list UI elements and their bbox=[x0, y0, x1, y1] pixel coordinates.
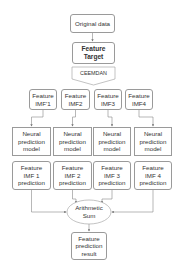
neural-model-box-4: Neural prediction model bbox=[134, 127, 172, 156]
neural-model-box-3: Neural prediction model bbox=[93, 127, 131, 156]
arrow-imf3-model3 bbox=[108, 110, 112, 126]
imf-prediction-box-3: Feature IMF 3 prediction bbox=[93, 161, 131, 190]
imf-box-2: Feature IMF2 bbox=[61, 89, 90, 110]
imf-prediction-box-4: Feature IMF 4 prediction bbox=[134, 161, 172, 190]
neural-model-box-1: Neural prediction model bbox=[12, 127, 51, 156]
prediction-result-box: Feature prediction result bbox=[71, 232, 107, 260]
arrow-pred1-sum bbox=[32, 190, 67, 212]
ceemdan-label: CEEMDAN bbox=[72, 68, 115, 79]
feature-target-box: Feature Target bbox=[72, 42, 115, 64]
imf-box-4: Feature IMF4 bbox=[125, 89, 153, 110]
arrow-pred4-sum bbox=[112, 190, 153, 212]
imf-box-1: Feature IMF'1 bbox=[29, 89, 57, 110]
arithmetic-sum-label: Arithmetic Sum bbox=[67, 200, 111, 224]
imf-prediction-box-2: Feature IMF 2 prediction bbox=[53, 161, 92, 190]
neural-model-box-2: Neural prediction model bbox=[53, 127, 92, 156]
original-data-box: Original data bbox=[70, 14, 115, 33]
imf-prediction-box-1: Feature IMF 1 prediction bbox=[12, 161, 51, 190]
arrow-imf1-model1 bbox=[32, 110, 44, 126]
imf-box-3: Feature IMF3 bbox=[94, 89, 122, 110]
arrow-imf4-model4 bbox=[139, 110, 153, 126]
arrow-imf2-model2 bbox=[73, 110, 76, 126]
